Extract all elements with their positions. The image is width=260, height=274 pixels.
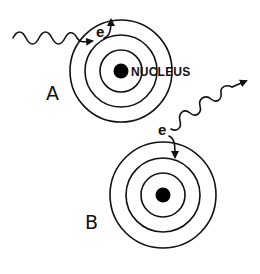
atom-b-label: B [85,211,98,233]
atom-a-electron-label: e [96,23,104,40]
outgoing-photon-wave-arrow [171,81,246,130]
incoming-photon-wave-arrow [13,32,92,44]
atom-b-electron-label: e [158,121,166,138]
atom-a-nucleus [114,64,129,79]
atom-b-electron-drop-arrow [169,136,175,157]
atom-b-nucleus [156,188,171,203]
atom-diagram: A B NUCLEUS e e [0,0,260,274]
atom-a-label: A [46,82,59,104]
nucleus-label: NUCLEUS [131,65,190,79]
